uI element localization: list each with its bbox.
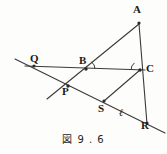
figure-caption: 図 9 . 6 [0,131,167,146]
line-label-ell: ℓ [119,108,123,118]
point-label-A: A [133,4,141,15]
lines-group [15,24,165,133]
point-label-B: B [79,55,86,66]
angle-arc-at-C [131,63,134,70]
point-C-marker [138,68,141,71]
point-Q-marker [32,64,35,67]
line-A-through-B-to-lower-left [47,24,139,99]
point-label-R: R [141,120,149,131]
point-B-marker [84,67,87,70]
point-label-P: P [62,86,69,97]
point-label-S: S [98,103,104,114]
geometry-figure: A Q B C P S R ℓ 図 9 . 6 [0,0,167,154]
point-A-marker [137,21,140,24]
points-group [32,21,148,124]
line-A-to-R [139,24,147,124]
segment-S-to-C [104,70,140,101]
point-label-C: C [146,63,154,74]
point-label-Q: Q [30,53,39,64]
